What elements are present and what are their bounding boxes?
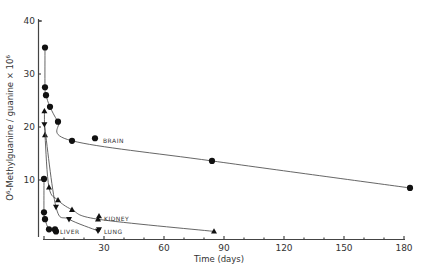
decay-chart: 306090120150180 10203040 Time (days) O⁶-… (0, 0, 429, 275)
x-tick-label: 150 (335, 243, 352, 253)
x-tick-label: 180 (395, 243, 412, 253)
series-label-kidney: KIDNEY (104, 215, 129, 222)
x-tick-label: 120 (275, 243, 292, 253)
series-label-brain: BRAIN (103, 137, 124, 144)
y-tick-label: 30 (24, 69, 36, 79)
y-axis-title: O⁶-Methylguanine / guanine × 10⁶ (5, 55, 15, 201)
x-axis-title: Time (days) (193, 254, 244, 264)
series-label-liver: LIVER (60, 228, 80, 235)
series-label-lung: LUNG (104, 228, 123, 235)
series-brain (42, 44, 413, 191)
x-tick-label: 30 (98, 243, 110, 253)
y-tick-label: 10 (24, 175, 36, 185)
x-tick-label: 90 (218, 243, 230, 253)
series-layer (41, 44, 413, 234)
x-axis-ticks: 306090120150180 (44, 236, 413, 253)
y-tick-label: 40 (24, 16, 36, 26)
x-tick-label: 60 (158, 243, 170, 253)
y-tick-label: 20 (24, 122, 36, 132)
